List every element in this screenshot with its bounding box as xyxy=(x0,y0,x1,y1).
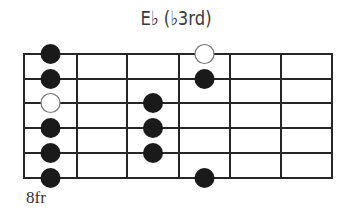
note-filled-dot-icon xyxy=(41,143,61,163)
starting-fret-label: 8fr xyxy=(26,188,46,208)
note-filled-dot-icon xyxy=(143,143,163,163)
root-note-open-dot-icon xyxy=(41,94,60,113)
note-filled-dot-icon xyxy=(41,44,61,64)
note-filled-dot-icon xyxy=(195,69,215,89)
root-note-open-dot-icon xyxy=(195,45,214,64)
note-filled-dot-icon xyxy=(41,118,61,138)
note-filled-dot-icon xyxy=(41,168,61,188)
fretboard-grid xyxy=(24,53,332,179)
note-filled-dot-icon xyxy=(195,168,215,188)
fretboard-diagram xyxy=(0,0,352,212)
note-filled-dot-icon xyxy=(143,93,163,113)
note-filled-dot-icon xyxy=(41,69,61,89)
note-filled-dot-icon xyxy=(143,118,163,138)
